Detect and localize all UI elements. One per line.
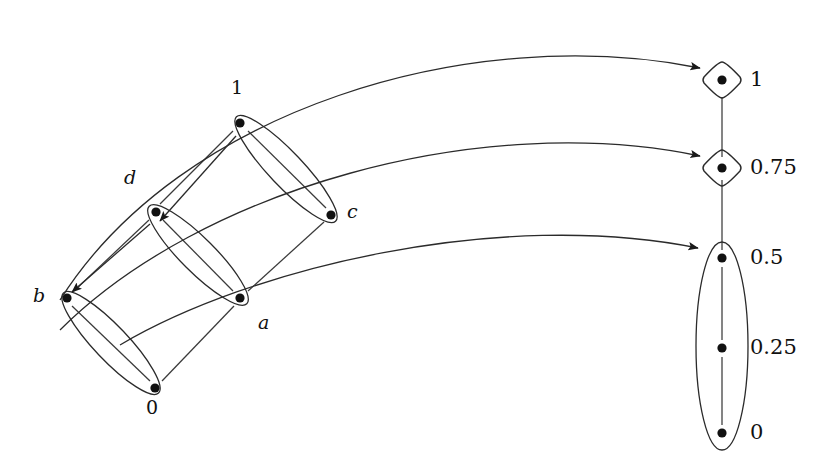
node-v075-dot	[717, 163, 726, 172]
label-node-one: 1	[231, 78, 243, 97]
node-v05-dot	[717, 253, 726, 262]
node-v0-dot	[717, 428, 726, 437]
label-node-d: d	[124, 168, 136, 187]
left-nodes	[62, 118, 335, 392]
left-blocks	[51, 105, 348, 405]
map-b-to-05-arc	[120, 235, 698, 345]
label-node-b: b	[33, 286, 45, 305]
edge-c-one	[248, 131, 326, 208]
label-node-v025: 0.25	[750, 337, 797, 358]
edge-zero-b	[72, 306, 150, 381]
order-diagram-figure: 1 d c b a 0 1 0.75 0.5 0.25 0	[0, 0, 823, 476]
label-node-c: c	[347, 202, 358, 221]
label-node-v1: 1	[750, 69, 763, 90]
node-v1-dot	[717, 75, 726, 84]
left-cover-edges	[72, 131, 326, 381]
label-node-a: a	[258, 313, 269, 332]
label-node-v075: 0.75	[750, 157, 797, 178]
map-1-to-1-arc	[60, 56, 700, 300]
node-v025-dot	[717, 343, 726, 352]
edge-a-c	[248, 222, 324, 291]
node-c-dot	[326, 210, 335, 219]
node-d-dot	[151, 207, 160, 216]
mapping-arrows	[60, 56, 700, 345]
diagram-canvas	[0, 0, 823, 476]
label-node-v05: 0.5	[750, 247, 783, 268]
node-one-dot	[235, 118, 244, 127]
label-node-v0: 0	[750, 422, 763, 443]
arrow-one-to-d	[160, 136, 236, 221]
node-a-dot	[235, 293, 244, 302]
edge-d-one	[160, 131, 233, 204]
node-zero-dot	[150, 383, 159, 392]
label-node-zero: 0	[146, 398, 158, 417]
